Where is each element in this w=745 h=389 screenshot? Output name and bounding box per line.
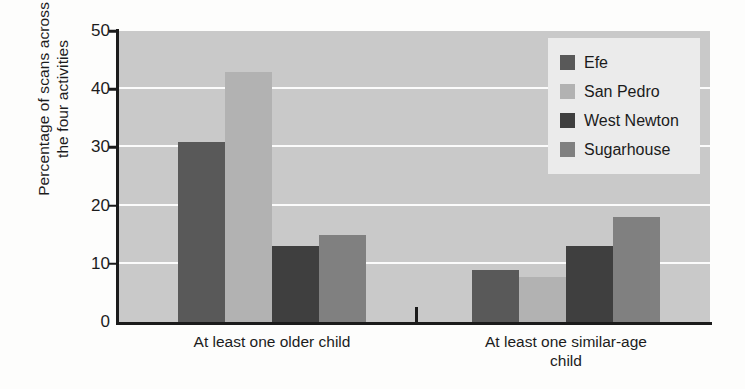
legend-item-3[interactable]: Sugarhouse [548, 135, 700, 164]
y-tick-label-30: 30 [66, 137, 110, 157]
x-axis-label-1-line-1: child [426, 351, 706, 370]
y-axis-title-line-1: Percentage of scans across [35, 0, 54, 249]
legend-label-3: Sugarhouse [584, 141, 670, 159]
y-axis-line [116, 29, 119, 324]
x-axis-label-0: At least one older child [132, 332, 412, 351]
bar-efe-group-1 [472, 270, 519, 322]
legend-swatch-icon-0 [560, 55, 575, 70]
legend-swatch-icon-3 [560, 142, 575, 157]
x-axis-label-0-line-0: At least one older child [132, 332, 412, 351]
legend-item-1[interactable]: San Pedro [548, 77, 700, 106]
x-axis-label-1: At least one similar-agechild [426, 332, 706, 371]
group-separator-tick [415, 307, 418, 322]
legend-item-2[interactable]: West Newton [548, 106, 700, 135]
y-tick-label-50: 50 [66, 21, 110, 41]
bar-san-pedro-group-0 [225, 72, 272, 322]
x-axis-line [116, 322, 712, 325]
bar-chart-figure: Percentage of scans across the four acti… [0, 0, 745, 389]
legend-swatch-icon-1 [560, 84, 575, 99]
bar-efe-group-0 [178, 142, 225, 322]
legend-item-0[interactable]: Efe [548, 48, 700, 77]
legend: Efe San Pedro West Newton Sugarhouse [548, 38, 700, 174]
legend-label-0: Efe [584, 54, 608, 72]
bar-sugarhouse-group-0 [319, 235, 366, 322]
legend-label-1: San Pedro [584, 83, 660, 101]
bar-sugarhouse-group-1 [613, 217, 660, 322]
bar-san-pedro-group-1 [519, 277, 566, 322]
y-tick-label-20: 20 [66, 196, 110, 216]
legend-swatch-icon-2 [560, 113, 575, 128]
x-axis-label-1-line-0: At least one similar-age [426, 332, 706, 351]
y-tick-label-0: 0 [66, 312, 110, 332]
y-tick-label-10: 10 [66, 254, 110, 274]
bar-west-newton-group-0 [272, 246, 319, 322]
legend-label-2: West Newton [584, 112, 679, 130]
bar-west-newton-group-1 [566, 246, 613, 322]
y-tick-label-40: 40 [66, 79, 110, 99]
